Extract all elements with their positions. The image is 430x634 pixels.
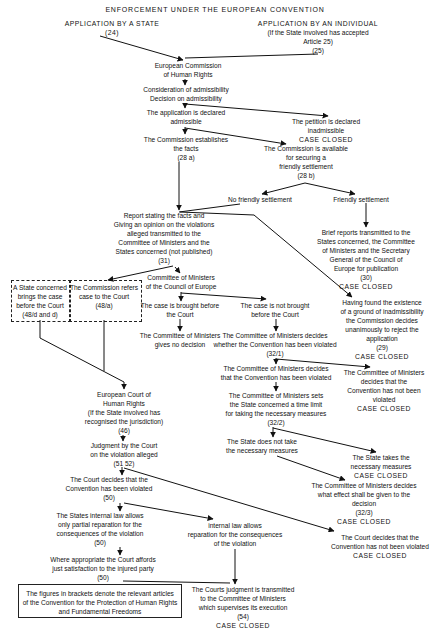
flowchart: ENFORCEMENT UNDER THE EUROPEAN CONVENTIO… [0, 0, 430, 634]
node-case-brought: The case is brought before the Court [141, 301, 219, 319]
node-full-reparation: internal law allows reparation for the c… [188, 521, 283, 548]
node-brief-reports: Brief reports transmitted to the States … [317, 228, 415, 291]
node-declared-admissible: The application is declared admissible [147, 108, 225, 126]
node-no-friendly-settlement: No friendly settlement [228, 195, 292, 204]
node-cm-no-decision: The Committee of Ministers gives no deci… [140, 331, 221, 349]
node-cm-decides-whether: The Committee of Ministers decides wheth… [213, 331, 336, 358]
diagram-title: ENFORCEMENT UNDER THE EUROPEAN CONVENTIO… [105, 6, 324, 13]
node-court-violated: The Court decides that the Convention ha… [66, 475, 153, 502]
node-case-not-brought: The case is not brought before the Court [241, 301, 310, 319]
node-application-by-state: APPLICATION BY A STATE (24) [65, 19, 160, 37]
node-court-not-violated: The Court decides that the Convention ha… [331, 533, 429, 560]
node-just-satisfaction: Where appropriate the Court affords just… [50, 555, 155, 582]
node-cm-violated: The Committee of Ministers decides that … [221, 364, 332, 382]
node-petition-inadmissible: The petition is declared inadmissible CA… [292, 117, 360, 144]
node-cm-time-limit: The Committee of Ministers sets the Stat… [226, 391, 327, 427]
node-reject-unanimously: Having found the existence of a ground o… [340, 298, 423, 361]
node-partial-reparation: The States internal law allows only part… [56, 511, 143, 547]
node-friendly-settlement-available: The Commission is available for securing… [264, 144, 348, 180]
node-establishes-facts: The Commission establishes the facts (28… [144, 135, 228, 162]
node-commission-refers: The Commission refers case to the Court … [70, 283, 138, 310]
node-committee-council-europe: Committee of Ministers of the Council of… [146, 273, 217, 291]
node-state-does-not-take: The State does not take the necessary me… [226, 437, 298, 455]
node-judgment: Judgment by the Court on the violation a… [90, 441, 157, 468]
node-state-brings-case: A State concerned brings the case before… [13, 283, 67, 319]
node-cm-effect: The Committee of Ministers decides what … [311, 481, 416, 526]
node-application-by-individual: APPLICATION BY AN INDIVIDUAL (If the Sta… [258, 19, 378, 55]
node-cm-not-violated: The Committee of Ministers decides that … [344, 368, 425, 413]
node-admissibility: Consideration of admissibility Decision … [143, 85, 228, 103]
node-report: Report stating the facts and Giving an o… [114, 211, 214, 265]
legend-note-box: The figures in brackets denote the relev… [18, 584, 182, 618]
node-state-takes: The State takes the necessary measures C… [351, 453, 412, 480]
node-european-commission: European Commission of Human Rights [155, 61, 222, 79]
node-judgment-transmitted: The Courts judgment is transmitted to th… [192, 585, 295, 630]
node-friendly-settlement: Friendly settlement [333, 195, 389, 204]
node-european-court: European Court of Human Rights (If the S… [85, 390, 163, 435]
